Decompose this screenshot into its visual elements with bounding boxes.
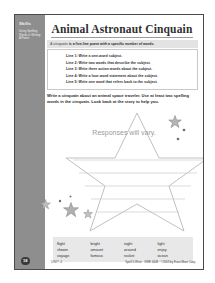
page-footer: 18 UNIT 4 Spell It-Write · SWE 4448 · ©2… [15, 253, 203, 269]
answer-placeholder-text: Responses will vary. [45, 129, 203, 136]
decorative-star-icon [63, 202, 79, 218]
definition-body: is a five-line poem with a specific numb… [68, 42, 155, 46]
page-number-badge: 18 [21, 257, 30, 266]
skills-sidebar: Skills Using Spelling Words in Writing: … [15, 15, 45, 269]
page-title: Animal Astronaut Cinquain [45, 23, 199, 35]
cinquain-line-rule: Line 1: Write a one-word subject. [66, 53, 197, 60]
cinquain-line-rule: Line 4: Write a four-word statement abou… [66, 73, 197, 80]
unit-label: UNIT 4 [51, 260, 62, 264]
directions-block: Write a cinquain about an animal space t… [47, 93, 195, 105]
decorative-dot-icon [69, 195, 72, 198]
decorative-dot-icon [58, 199, 62, 203]
definition-arrow-icon [38, 39, 45, 49]
directions-text: Write a cinquain about an animal space t… [47, 93, 195, 105]
cinquain-line-rule: Line 3: Write three action words about t… [66, 66, 197, 73]
decorative-dot-icon [176, 137, 180, 141]
definition-bar: A cinquain is a five-line poem with a sp… [47, 40, 198, 48]
title-divider [51, 37, 193, 38]
star-writing-area[interactable]: Responses will vary. [45, 111, 203, 233]
cinquain-line-rule: Line 5: Write one word that refers back … [66, 79, 197, 86]
decorative-star-icon [168, 115, 182, 129]
worksheet-page: Skills Using Spelling Words in Writing: … [14, 14, 204, 270]
cinquain-line-rule: Line 2: Write two words that describe th… [66, 60, 197, 67]
decorative-dot-icon [182, 128, 186, 132]
definition-term: A cinquain [50, 42, 68, 46]
worksheet-content: Animal Astronaut Cinquain A cinquain is … [45, 15, 203, 269]
skills-sidebar-title: Skills [19, 21, 42, 26]
decorative-star-icon [40, 199, 51, 210]
copyright-notice: Spell It-Write · SWE 4448 · ©2003 by Eva… [125, 260, 196, 264]
page-title-block: Animal Astronaut Cinquain [45, 23, 199, 38]
cinquain-lines-box: Line 1: Write a one-word subject. Line 2… [47, 49, 198, 90]
decorative-star-icon [83, 209, 93, 219]
definition-text: A cinquain is a five-line poem with a sp… [50, 42, 195, 46]
